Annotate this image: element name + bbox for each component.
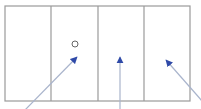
panel-dividers [51,6,144,101]
panel-diagram [0,0,201,109]
circle-marker [72,41,78,47]
arrow [166,60,201,102]
